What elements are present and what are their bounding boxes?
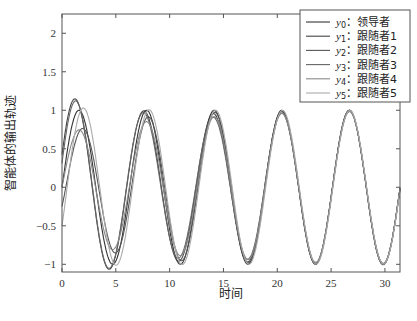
y-tick-label: 1	[51, 104, 57, 116]
y-axis-label: 智能体的输出轨迹	[3, 95, 18, 191]
y-tick-label: 2	[51, 27, 57, 39]
x-tick-label: 0	[59, 277, 65, 289]
y-tick-label: 1.5	[42, 66, 56, 78]
y-tick-label: 0	[51, 181, 57, 193]
x-tick-label: 30	[379, 277, 391, 289]
x-tick-label: 25	[326, 277, 338, 289]
legend: y0：领导者y1：跟随者1y2：跟随者2y3：跟随者3y4：跟随者4y5：跟随者…	[300, 10, 410, 102]
x-tick-label: 10	[164, 277, 176, 289]
y-tick-label: −1	[44, 258, 56, 270]
plot-lines	[62, 99, 400, 269]
x-tick-label: 5	[113, 277, 119, 289]
series-line	[62, 112, 400, 264]
y-tick-label: 0.5	[42, 143, 56, 155]
x-axis-label: 时间	[219, 287, 243, 301]
trajectory-chart: 051015202530−1−0.500.511.52 y0：领导者y1：跟随者…	[0, 0, 417, 321]
x-tick-label: 20	[272, 277, 284, 289]
y-tick-label: −0.5	[36, 220, 56, 232]
